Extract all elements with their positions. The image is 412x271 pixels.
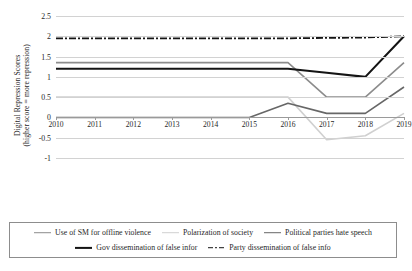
x-tick-mark [404,117,405,120]
x-tick-mark [327,117,328,120]
legend-row-2: Gov dissemination of false inforParty di… [10,240,396,255]
x-tick-mark [288,117,289,120]
chart-legend: Use of SM for offline violencePolarizati… [9,222,397,258]
x-tick-mark [172,117,173,120]
x-tick-label: 2016 [280,120,295,129]
x-tick-label: 2010 [48,120,63,129]
legend-item[interactable]: Use of SM for offline violence [34,228,151,237]
legend-swatch-icon [75,246,92,250]
x-tick-mark [249,117,250,120]
y-tick-label: -1 [45,154,52,163]
legend-swatch-icon [264,231,281,235]
x-tick-label: 2011 [87,120,102,129]
y-tick-label: 0.5 [41,93,51,102]
legend-row-1: Use of SM for offline violencePolarizati… [10,225,396,240]
x-tick-label: 2019 [396,120,411,129]
gridline-2-5 [56,16,404,17]
y-tick-label: 1 [47,72,51,81]
x-tick-label: 2014 [203,120,218,129]
gridline-0 [56,117,404,118]
x-tick-label: 2013 [164,120,179,129]
x-tick-mark [133,117,134,120]
x-tick-label: 2017 [319,120,334,129]
legend-label: Political parties hate speech [285,228,372,237]
y-tick-label: 2 [47,32,51,41]
gridline--1 [56,158,404,159]
legend-label: Gov dissemination of false infor [96,243,197,252]
y-tick-label: -0.5 [39,133,51,142]
y-axis-title-line-2: (higher score = more repression) [22,15,31,175]
legend-item[interactable]: Political parties hate speech [264,228,372,237]
legend-item[interactable]: Party dissemination of false info [208,243,330,252]
x-tick-label: 2015 [242,120,257,129]
series-lines [56,16,404,158]
gridline-0-5 [56,97,404,98]
legend-swatch-icon [208,246,225,250]
x-tick-mark [211,117,212,120]
legend-label: Party dissemination of false info [229,243,330,252]
legend-label: Use of SM for offline violence [55,228,151,237]
legend-swatch-icon [162,231,179,235]
y-axis-title-line-1: Digital Repression Scores [13,15,22,175]
gridline-1-5 [56,57,404,58]
legend-label: Polarization of society [183,228,253,237]
x-tick-label: 2018 [358,120,373,129]
series-line [56,87,404,117]
x-tick-mark [95,117,96,120]
legend-item[interactable]: Gov dissemination of false infor [75,243,197,252]
y-axis-title: Digital Repression Scores (higher score … [13,15,32,175]
legend-swatch-icon [34,231,51,235]
gridline-1 [56,77,404,78]
series-line [56,97,404,140]
y-tick-label: 1.5 [41,52,51,61]
y-tick-label: 2.5 [41,12,51,21]
x-tick-label: 2012 [126,120,141,129]
x-tick-mark [56,117,57,120]
x-tick-mark [365,117,366,120]
gridline--0-5 [56,138,404,139]
legend-item[interactable]: Polarization of society [162,228,253,237]
gridline-2 [56,36,404,37]
plot-area: 2.521.510.50-0.5-12010201120122013201420… [56,16,404,158]
